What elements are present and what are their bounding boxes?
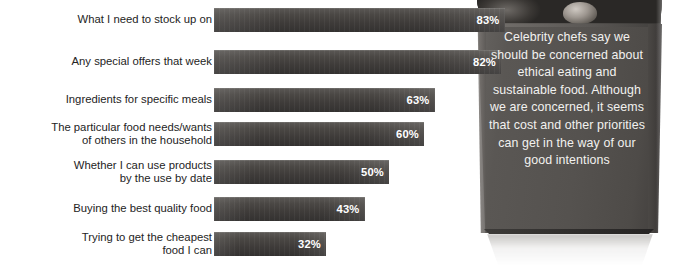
category-label: Whether I can use products by the use by… — [0, 159, 212, 185]
category-label: Buying the best quality food — [0, 202, 212, 215]
bar-track: 63% — [214, 88, 435, 112]
category-label: Any special offers that week — [0, 55, 212, 68]
bar: 50% — [214, 160, 389, 184]
category-label: Ingredients for specific meals — [0, 93, 212, 106]
bar-track: 32% — [214, 232, 326, 256]
bar: 82% — [214, 50, 501, 74]
bar-value-label: 83% — [477, 14, 500, 26]
bar-value-label: 50% — [361, 166, 384, 178]
bar: 43% — [214, 197, 365, 221]
bar-value-label: 60% — [396, 128, 419, 140]
category-label: What I need to stock up on — [0, 13, 212, 26]
bar-row: Trying to get the cheapest food I can32% — [0, 232, 682, 256]
category-label: Trying to get the cheapest food I can — [0, 231, 212, 257]
category-label: The particular food needs/wants of other… — [0, 121, 212, 147]
bar: 32% — [214, 232, 326, 256]
infographic-bar-chart: What I need to stock up on83%Any special… — [0, 0, 682, 265]
bar-value-label: 43% — [337, 203, 360, 215]
bar-track: 83% — [214, 8, 505, 32]
bar: 83% — [214, 8, 505, 32]
bar-row: Buying the best quality food43% — [0, 197, 682, 221]
bar: 60% — [214, 122, 424, 146]
quote-text: Celebrity chefs say we should be concern… — [487, 29, 647, 170]
bar-track: 82% — [214, 50, 501, 74]
bar-value-label: 82% — [473, 56, 496, 68]
bar: 63% — [214, 88, 435, 112]
bar-track: 43% — [214, 197, 365, 221]
bar-track: 60% — [214, 122, 424, 146]
bar-value-label: 32% — [298, 238, 321, 250]
bar-value-label: 63% — [407, 94, 430, 106]
bar-track: 50% — [214, 160, 389, 184]
